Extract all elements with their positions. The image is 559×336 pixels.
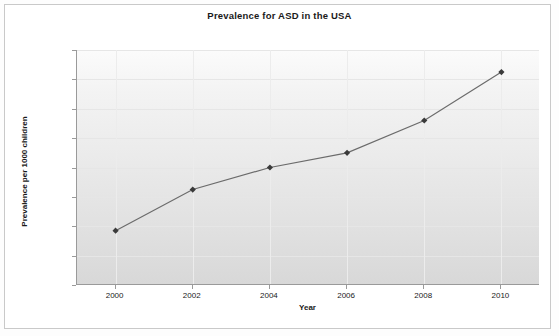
data-point-marker <box>190 186 196 192</box>
y-axis-tick-mark <box>72 226 76 227</box>
y-axis-tick-mark <box>72 109 76 110</box>
x-axis-tick-mark <box>346 285 347 289</box>
y-axis-tick-mark <box>72 285 76 286</box>
x-axis-tick-label: 2006 <box>337 291 355 300</box>
x-axis-title: Year <box>76 303 539 312</box>
y-axis-tick-mark <box>72 256 76 257</box>
x-axis-tick-mark <box>192 285 193 289</box>
x-axis-tick-mark <box>115 285 116 289</box>
chart-image: Prevalence for ASD in the USA Prevalence… <box>0 0 559 336</box>
y-axis-tick-mark <box>72 79 76 80</box>
x-axis-tick-label: 2008 <box>414 291 432 300</box>
data-point-marker <box>112 228 118 234</box>
y-axis-title: Prevalence per 1000 children <box>20 52 29 292</box>
x-axis-tick-label: 2002 <box>183 291 201 300</box>
x-axis-tick-mark <box>423 285 424 289</box>
plot-area <box>76 50 539 285</box>
data-point-marker <box>267 164 273 170</box>
data-point-marker <box>421 117 427 123</box>
y-axis-tick-mark <box>72 197 76 198</box>
x-axis-tick-mark <box>269 285 270 289</box>
line-series <box>77 50 540 285</box>
data-point-marker <box>344 150 350 156</box>
x-axis-tick-label: 2000 <box>106 291 124 300</box>
data-point-marker <box>498 69 504 75</box>
y-axis-tick-mark <box>72 50 76 51</box>
x-axis-tick-label: 2004 <box>260 291 278 300</box>
x-axis-tick-mark <box>500 285 501 289</box>
chart-title: Prevalence for ASD in the USA <box>0 10 559 21</box>
y-axis-tick-mark <box>72 138 76 139</box>
x-axis-tick-label: 2010 <box>492 291 510 300</box>
y-axis-tick-mark <box>72 168 76 169</box>
